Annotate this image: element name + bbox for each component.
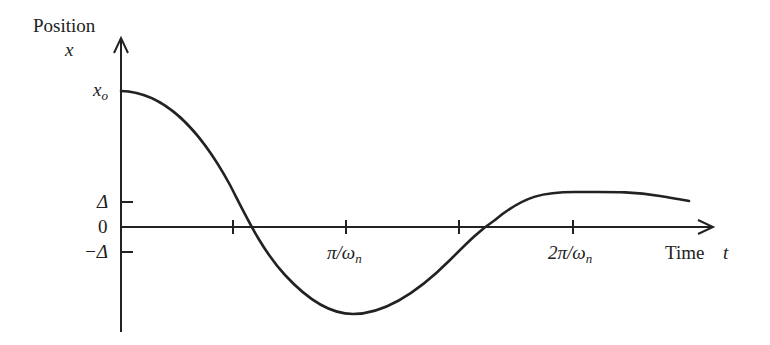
pi-over-omega-main: π/ω xyxy=(327,242,355,263)
x-axis-title-symbol: t xyxy=(723,243,728,262)
y-tick-label-xo: xo xyxy=(93,80,108,102)
xo-subscript: o xyxy=(101,88,108,103)
y-tick-label-neg-delta: −Δ xyxy=(84,242,108,261)
response-curve xyxy=(121,91,689,314)
x-axis-title-word: Time xyxy=(665,243,704,262)
y-axis-title-word: Position xyxy=(33,16,95,35)
x-tick-label-pi-over-omega: π/ωn xyxy=(327,243,362,265)
y-tick-label-zero: 0 xyxy=(98,217,108,236)
two-pi-over-omega-subscript: n xyxy=(586,251,593,266)
pi-over-omega-subscript: n xyxy=(355,251,362,266)
two-pi-over-omega-main: 2π/ω xyxy=(548,242,586,263)
y-axis-title-symbol: x xyxy=(65,40,73,59)
y-tick-label-delta: Δ xyxy=(97,192,108,211)
x-tick-label-two-pi-over-omega: 2π/ωn xyxy=(548,243,592,265)
position-time-plot xyxy=(0,0,770,345)
